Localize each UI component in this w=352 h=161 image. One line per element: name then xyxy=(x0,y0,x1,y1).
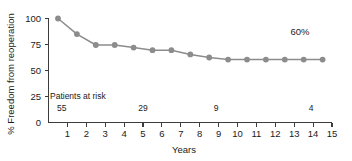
patients-at-risk-value-3: 4 xyxy=(309,103,314,113)
survival-curve-chart: 100 75 50 25 0 1 2 3 4 5 6 7 xyxy=(0,0,352,161)
data-point-7 xyxy=(187,52,193,58)
patients-at-risk-value-1: 29 xyxy=(138,103,148,113)
x-tick-label-3: 3 xyxy=(103,128,108,139)
data-point-0 xyxy=(55,16,61,22)
x-tick-label-10: 10 xyxy=(232,128,243,139)
x-tick-label-12: 12 xyxy=(270,128,281,139)
data-point-9 xyxy=(225,57,231,63)
x-tick-label-9: 9 xyxy=(216,128,221,139)
data-point-10 xyxy=(244,57,250,63)
x-tick-label-2: 2 xyxy=(84,128,89,139)
data-point-6 xyxy=(169,47,175,53)
data-point-14 xyxy=(320,57,326,63)
y-tick-label-50: 50 xyxy=(30,65,41,76)
y-tick-label-25: 25 xyxy=(30,91,41,102)
x-tick-label-13: 13 xyxy=(289,128,300,139)
patients-at-risk-value-0: 55 xyxy=(57,103,67,113)
series-markers xyxy=(55,16,325,63)
y-tick-label-75: 75 xyxy=(30,39,41,50)
x-tick-label-1: 1 xyxy=(65,128,70,139)
x-axis-title: Years xyxy=(172,144,196,155)
x-tick-label-6: 6 xyxy=(159,128,164,139)
x-tick-label-14: 14 xyxy=(308,128,319,139)
y-axis-title: % Freedom from reoperation xyxy=(5,13,16,134)
x-tick-label-11: 11 xyxy=(251,128,261,139)
x-tick-label-5: 5 xyxy=(140,128,145,139)
x-tick-label-7: 7 xyxy=(178,128,183,139)
data-point-3 xyxy=(112,42,118,48)
data-point-5 xyxy=(150,47,156,53)
data-point-2 xyxy=(93,42,99,48)
x-tick-label-8: 8 xyxy=(197,128,202,139)
x-tick-label-4: 4 xyxy=(121,128,126,139)
data-point-1 xyxy=(74,31,80,37)
y-tick-label-100: 100 xyxy=(25,13,41,24)
annotation-60-percent: 60% xyxy=(290,26,310,37)
chart-container: 100 75 50 25 0 1 2 3 4 5 6 7 xyxy=(0,0,352,161)
data-point-8 xyxy=(206,55,212,61)
patients-at-risk-value-2: 9 xyxy=(214,103,219,113)
x-tick-label-15: 15 xyxy=(327,128,338,139)
data-point-13 xyxy=(301,57,307,63)
patients-at-risk-heading: Patients at risk xyxy=(50,91,106,101)
data-point-11 xyxy=(263,57,269,63)
data-point-4 xyxy=(131,45,137,51)
y-tick-label-0: 0 xyxy=(36,117,41,128)
data-point-12 xyxy=(282,57,288,63)
